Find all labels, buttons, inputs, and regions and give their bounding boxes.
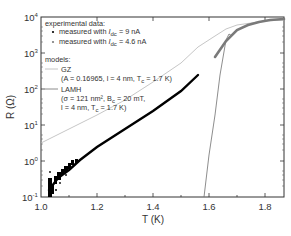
data-4.6na bbox=[215, 19, 284, 57]
lamh-curve bbox=[204, 34, 232, 197]
x-tick-label: 1.8 bbox=[258, 201, 271, 212]
legend-item-9na: measured with Idc = 9 nA bbox=[59, 27, 140, 37]
x-tick-label: 1.2 bbox=[90, 201, 103, 212]
legend-marker-4.6na bbox=[52, 41, 54, 43]
legend-gz-params: (A = 0.16965, l = 4 nm, Tc = 1.7 K) bbox=[61, 74, 172, 84]
y-tick-labels: 104 103 102 101 100 10-1 bbox=[22, 12, 39, 203]
chart: 1.0 1.2 1.4 1.6 1.8 T (K) 104 103 102 10… bbox=[0, 0, 291, 236]
svg-text:104: 104 bbox=[24, 12, 39, 23]
legend-marker-9na bbox=[52, 31, 54, 33]
legend: experimental data: measured with Idc = 9… bbox=[45, 19, 172, 113]
x-tick-label: 1.6 bbox=[202, 201, 215, 212]
legend-item-4.6na: measured with Idc = 4.6 nA bbox=[59, 37, 146, 47]
x-tick-label: 1.0 bbox=[34, 201, 47, 212]
x-tick-label: 1.4 bbox=[146, 201, 159, 212]
svg-text:101: 101 bbox=[24, 120, 39, 131]
svg-text:102: 102 bbox=[24, 84, 39, 95]
legend-item-lamh: LAMH bbox=[61, 85, 81, 94]
legend-lamh-params-2: l = 4 nm, Tc = 1.7 K) bbox=[61, 103, 126, 113]
svg-text:100: 100 bbox=[24, 156, 39, 167]
x-axis-label: T (K) bbox=[142, 214, 164, 225]
y-axis-label: R (Ω) bbox=[5, 95, 16, 119]
legend-header-models: models: bbox=[45, 55, 71, 64]
legend-item-gz: GZ bbox=[61, 65, 72, 74]
svg-text:103: 103 bbox=[24, 48, 39, 59]
